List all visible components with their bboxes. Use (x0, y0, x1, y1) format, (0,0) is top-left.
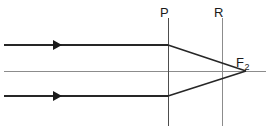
ray-diagram-svg (0, 0, 266, 129)
upper-refracted-ray (168, 45, 246, 71)
lower-refracted-ray (168, 71, 246, 96)
lower-ray-arrowhead-icon (53, 91, 62, 101)
focal-point-letter: F (236, 55, 244, 70)
focal-point-label: F2 (236, 56, 249, 69)
lens-plane-p-label: P (160, 6, 169, 19)
reference-plane-r-label: R (214, 6, 223, 19)
upper-ray-arrowhead-icon (53, 40, 62, 50)
focal-point-subscript: 2 (244, 62, 249, 72)
ray-diagram-canvas: P R F2 (0, 0, 266, 129)
